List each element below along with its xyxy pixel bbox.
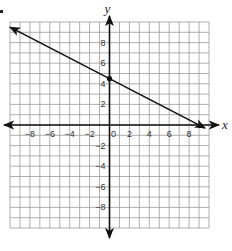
x-tick-label: −2	[84, 129, 94, 139]
y-tick-label: 4	[100, 79, 105, 89]
y-tick-label: −8	[95, 202, 105, 212]
x-axis-label: x	[221, 117, 228, 132]
x-tick-label: 4	[147, 129, 152, 139]
y-tick-label: 2	[100, 99, 105, 109]
x-tick-label: 6	[167, 129, 172, 139]
x-tick-label: 2	[127, 129, 132, 139]
y-tick-label: 8	[100, 38, 105, 48]
y-tick-label: −4	[95, 161, 105, 171]
y-tick-label: 6	[100, 58, 105, 68]
y-tick-label: −6	[95, 182, 105, 192]
x-tick-label: −4	[65, 129, 75, 139]
y-intercept-point	[107, 76, 112, 81]
coordinate-plane: xy −8−6−4−202468−8−6−4−22468	[0, 0, 232, 251]
y-tick-label: −2	[95, 141, 105, 151]
axes: xy	[4, 1, 228, 238]
x-tick-label: 8	[187, 129, 192, 139]
x-tick-label: −6	[45, 129, 55, 139]
x-tick-label: −8	[25, 129, 35, 139]
x-tick-label: 0	[111, 129, 116, 139]
y-axis-label: y	[103, 1, 111, 16]
